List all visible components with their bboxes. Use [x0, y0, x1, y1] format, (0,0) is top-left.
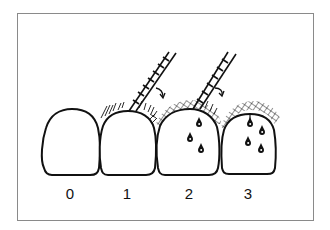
gingival-index-diagram [0, 0, 330, 230]
stage-label-0: 0 [60, 185, 80, 203]
stage-label-1: 1 [117, 185, 137, 203]
periodontal-probe-icon [193, 52, 236, 109]
tooth-0 [42, 109, 100, 175]
stage-label-2: 2 [179, 185, 199, 203]
arrow-icon [156, 88, 165, 98]
periodontal-probe-icon [129, 52, 176, 111]
arrow-icon [215, 88, 224, 96]
stage-label-3: 3 [238, 185, 258, 203]
tooth-3 [221, 101, 280, 174]
